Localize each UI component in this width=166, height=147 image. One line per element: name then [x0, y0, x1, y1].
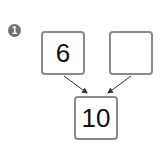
arrows — [0, 0, 166, 147]
arrow-right-to-bottom-icon — [108, 76, 131, 93]
arrow-left-to-bottom-icon — [64, 76, 87, 93]
